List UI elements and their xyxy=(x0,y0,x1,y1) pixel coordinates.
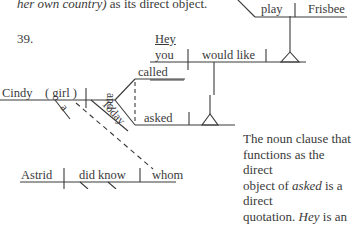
word-girl-appositive: ( girl ) xyxy=(45,87,77,100)
word-frisbee: Frisbee xyxy=(308,3,345,16)
word-did-know: did know xyxy=(79,169,126,182)
word-hey: Hey xyxy=(155,33,176,46)
word-would-like: would like xyxy=(202,49,255,62)
explanation-note: The noun clause that functions as the di… xyxy=(243,131,353,224)
word-called: called xyxy=(138,66,168,79)
note-line-1: The noun clause that xyxy=(243,131,353,147)
note-line-3: object of asked is a direct xyxy=(243,178,353,209)
word-asked: asked xyxy=(144,112,172,125)
note-line-4: quotation. Hey is an xyxy=(243,209,353,225)
word-astrid: Astrid xyxy=(21,169,52,182)
word-you: you xyxy=(155,49,174,62)
note-line-2: functions as the direct xyxy=(243,147,353,178)
word-whom: whom xyxy=(152,169,183,182)
word-play: play xyxy=(261,3,283,16)
word-cindy: Cindy xyxy=(2,87,33,100)
